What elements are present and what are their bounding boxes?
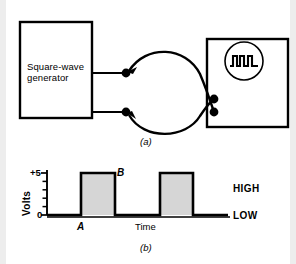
patch-cord-top-to-bottom xyxy=(129,52,214,112)
generator-terminal-top[interactable] xyxy=(122,69,131,78)
point-label-a: A xyxy=(77,221,84,232)
waveform-trace xyxy=(47,173,228,215)
x-axis-label: Time xyxy=(135,222,156,233)
scope-terminal-top[interactable] xyxy=(210,95,219,104)
scan-margin-left xyxy=(0,0,6,264)
patch-cord-bottom-to-top xyxy=(129,99,214,134)
generator-label: Square-wave generator xyxy=(27,62,84,83)
point-label-b: B xyxy=(117,167,124,178)
generator-terminal-bottom[interactable] xyxy=(122,108,131,117)
level-label-low: LOW xyxy=(233,210,258,221)
caption-b: (b) xyxy=(140,243,152,254)
y-axis-label: Volts xyxy=(21,191,32,216)
y-tick-label-high: +5 xyxy=(30,168,41,179)
panel-b-chart xyxy=(41,170,230,217)
scope-terminal-bottom[interactable] xyxy=(210,108,219,117)
generator-label-line2: generator xyxy=(27,73,84,84)
pulse-fill-1 xyxy=(81,173,115,215)
y-tick-label-zero: 0 xyxy=(37,210,42,221)
scan-margin-right xyxy=(290,0,296,264)
figure-container: Square-wave generator (a) Volts +5 0 B A… xyxy=(0,0,296,264)
pulse-fill-2 xyxy=(160,173,193,215)
level-label-high: HIGH xyxy=(233,183,260,194)
caption-a: (a) xyxy=(140,137,152,148)
